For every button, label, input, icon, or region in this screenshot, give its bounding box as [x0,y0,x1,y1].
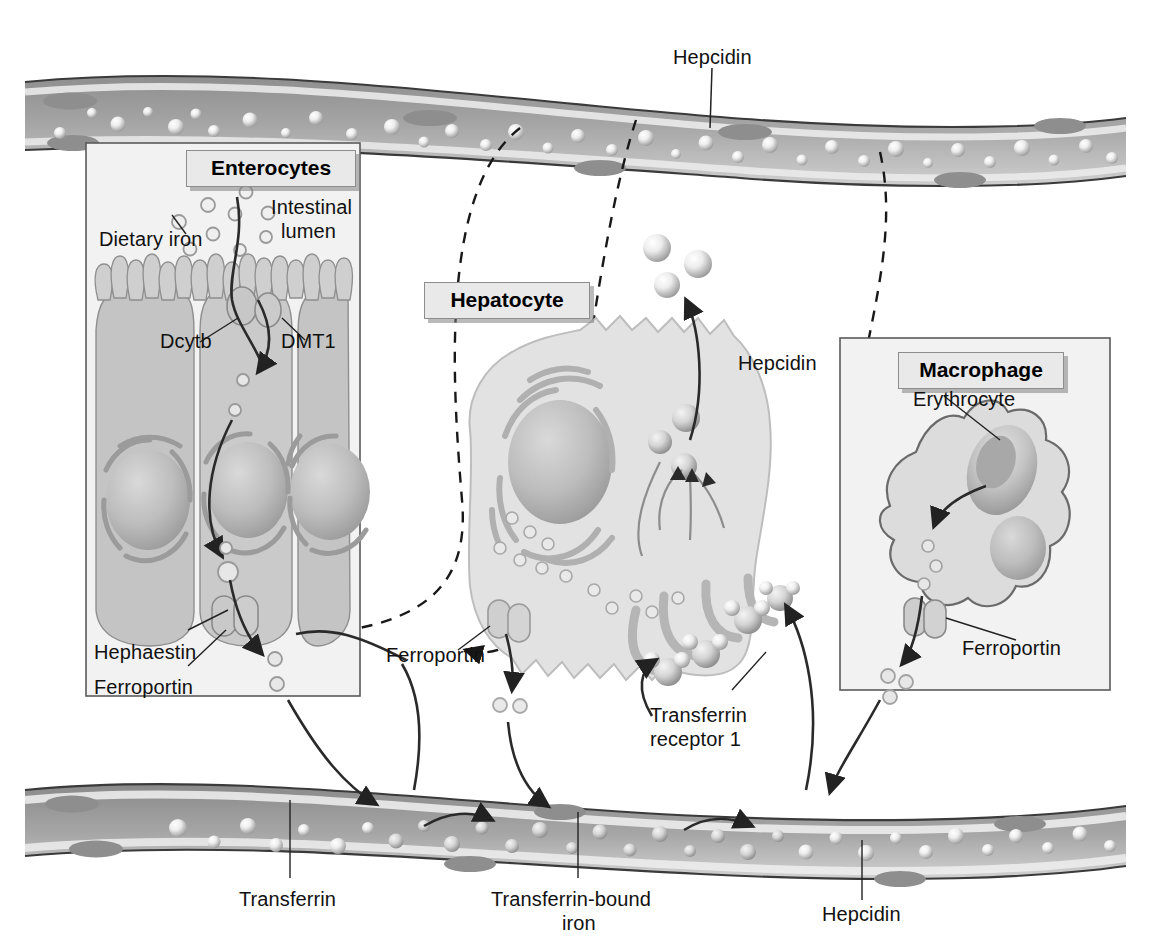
panel-title-macrophage: Macrophage [898,352,1064,389]
label-intestinal-lumen-line1: Intestinal [271,196,352,219]
macrophage-iron-export-arrow [830,700,880,792]
label-transferrin-receptor-line1: Transferrin [650,704,747,727]
panel-title-hepatocyte: Hepatocyte [424,282,590,319]
label-hepcidin-hepatocyte: Hepcidin [738,352,817,375]
label-hepcidin-top: Hepcidin [673,46,752,69]
label-dmt1: DMT1 [281,330,336,353]
label-hephaestin: Hephaestin [94,641,196,664]
label-transferrin: Transferrin [239,888,336,911]
label-ferroportin-macrophage: Ferroportin [962,637,1061,660]
label-ferroportin-hepatocyte: Ferroportin [386,644,485,667]
iron-homeostasis-figure: Enterocytes Hepatocyte Macrophage Hepcid… [0,0,1149,946]
label-ferroportin-enterocyte: Ferroportin [94,676,193,699]
label-intestinal-lumen-line2: lumen [281,220,336,243]
label-dcytb: Dcytb [160,330,212,353]
ferroportin-channel-icon [488,600,530,642]
label-hepcidin-bottom: Hepcidin [822,903,901,926]
label-transferrin-bound-iron-line1: Transferrin-bound [491,888,651,911]
ferroportin-channel-icon [904,598,946,638]
label-transferrin-receptor-line2: receptor 1 [650,728,741,751]
panel-title-enterocytes: Enterocytes [186,150,356,187]
label-transferrin-bound-iron-line2: iron [562,912,596,935]
diagram-canvas [0,0,1149,946]
label-erythrocyte: Erythrocyte [913,388,1015,411]
cell-nucleus-icon [990,516,1046,580]
bottom-blood-vessel [25,784,1126,887]
label-dietary-iron: Dietary iron [99,228,202,251]
